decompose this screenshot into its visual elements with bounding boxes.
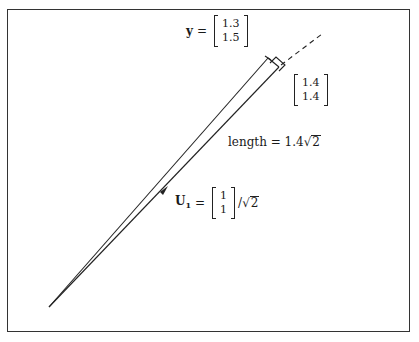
sqrt-argument: 2	[250, 196, 260, 209]
u1-component-1: 1	[220, 189, 227, 203]
u1-vector-label: U1 = 1 1 / √ 2	[175, 186, 259, 220]
sqrt-symbol: √	[304, 135, 312, 149]
u1-symbol: U1	[175, 194, 191, 212]
equals-sign: =	[195, 196, 205, 210]
u1-vector-matrix: 1 1	[212, 187, 235, 219]
vector-diagram	[0, 0, 419, 342]
y-vector-line	[49, 58, 268, 307]
y-component-1: 1.3	[222, 17, 240, 31]
projection-vector-label: 1.4 1.4	[291, 73, 331, 107]
length-label: length = 1.4 √ 2	[228, 134, 321, 150]
y-component-2: 1.5	[222, 31, 240, 45]
sqrt-two: √ 2	[242, 196, 259, 210]
sqrt-argument: 2	[311, 135, 321, 148]
sqrt-two: √ 2	[304, 135, 321, 149]
u1-component-2: 1	[220, 203, 227, 217]
projection-component-2: 1.4	[302, 90, 320, 104]
projection-vector-matrix: 1.4 1.4	[294, 74, 328, 106]
right-bracket	[244, 15, 248, 47]
sqrt-symbol: √	[242, 196, 250, 210]
right-bracket	[324, 74, 328, 106]
right-bracket	[231, 187, 235, 219]
y-vector-label: y = 1.3 1.5	[186, 14, 251, 48]
y-vector-matrix: 1.3 1.5	[214, 15, 248, 47]
length-text: length = 1.4	[228, 135, 304, 149]
u1-direction-dashed	[281, 34, 322, 65]
projection-component-1: 1.4	[302, 76, 320, 90]
equals-sign: =	[197, 24, 207, 38]
y-symbol: y	[186, 24, 193, 38]
